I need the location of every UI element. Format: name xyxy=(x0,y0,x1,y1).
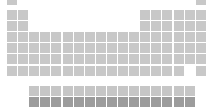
element-cell[interactable] xyxy=(40,32,50,42)
lanthanide-cell[interactable] xyxy=(85,86,95,96)
element-cell[interactable] xyxy=(7,10,17,20)
element-cell[interactable] xyxy=(196,43,206,53)
element-cell[interactable] xyxy=(185,21,195,31)
element-cell[interactable] xyxy=(162,54,172,64)
element-cell[interactable] xyxy=(196,54,206,64)
actinide-cell[interactable] xyxy=(63,97,73,107)
element-cell[interactable] xyxy=(63,32,73,42)
actinide-cell[interactable] xyxy=(151,97,161,107)
element-cell[interactable] xyxy=(29,54,39,64)
element-cell[interactable] xyxy=(51,32,61,42)
element-cell[interactable] xyxy=(162,66,172,76)
element-cell[interactable] xyxy=(29,32,39,42)
element-cell[interactable] xyxy=(74,66,84,76)
lanthanide-cell[interactable] xyxy=(29,86,39,96)
element-cell[interactable] xyxy=(196,0,206,5)
element-cell[interactable] xyxy=(7,43,17,53)
element-cell[interactable] xyxy=(18,54,28,64)
element-cell[interactable] xyxy=(151,10,161,20)
element-cell[interactable] xyxy=(129,54,139,64)
actinide-cell[interactable] xyxy=(129,97,139,107)
element-cell[interactable] xyxy=(63,66,73,76)
element-cell[interactable] xyxy=(140,21,150,31)
element-cell[interactable] xyxy=(174,10,184,20)
element-cell[interactable] xyxy=(51,66,61,76)
element-cell[interactable] xyxy=(151,66,161,76)
element-cell[interactable] xyxy=(96,43,106,53)
actinide-cell[interactable] xyxy=(74,97,84,107)
element-cell[interactable] xyxy=(118,32,128,42)
element-cell[interactable] xyxy=(63,54,73,64)
element-cell[interactable] xyxy=(174,54,184,64)
lanthanide-cell[interactable] xyxy=(151,86,161,96)
actinide-cell[interactable] xyxy=(96,97,106,107)
element-cell[interactable] xyxy=(107,54,117,64)
actinide-cell[interactable] xyxy=(174,97,184,107)
element-cell[interactable] xyxy=(7,54,17,64)
element-cell[interactable] xyxy=(151,54,161,64)
actinide-cell[interactable] xyxy=(118,97,128,107)
element-cell[interactable] xyxy=(96,54,106,64)
element-cell[interactable] xyxy=(196,32,206,42)
element-cell[interactable] xyxy=(162,32,172,42)
element-cell[interactable] xyxy=(129,32,139,42)
lanthanide-cell[interactable] xyxy=(107,86,117,96)
lanthanide-cell[interactable] xyxy=(74,86,84,96)
element-cell[interactable] xyxy=(96,32,106,42)
lanthanide-cell[interactable] xyxy=(63,86,73,96)
element-cell[interactable] xyxy=(7,32,17,42)
element-cell[interactable] xyxy=(18,66,28,76)
element-cell[interactable] xyxy=(162,10,172,20)
lanthanide-cell[interactable] xyxy=(51,86,61,96)
element-cell[interactable] xyxy=(129,43,139,53)
element-cell[interactable] xyxy=(174,21,184,31)
element-cell[interactable] xyxy=(96,66,106,76)
element-cell[interactable] xyxy=(118,54,128,64)
element-cell[interactable] xyxy=(18,43,28,53)
element-cell[interactable] xyxy=(29,66,39,76)
lanthanide-cell[interactable] xyxy=(129,86,139,96)
element-cell[interactable] xyxy=(185,32,195,42)
element-cell[interactable] xyxy=(107,66,117,76)
element-cell[interactable] xyxy=(85,54,95,64)
element-cell[interactable] xyxy=(7,21,17,31)
element-cell[interactable] xyxy=(196,66,206,76)
element-cell[interactable] xyxy=(140,32,150,42)
element-cell[interactable] xyxy=(18,21,28,31)
element-cell[interactable] xyxy=(151,32,161,42)
element-cell[interactable] xyxy=(18,32,28,42)
actinide-cell[interactable] xyxy=(140,97,150,107)
lanthanide-cell[interactable] xyxy=(185,86,195,96)
lanthanide-cell[interactable] xyxy=(162,86,172,96)
actinide-cell[interactable] xyxy=(85,97,95,107)
element-cell[interactable] xyxy=(118,43,128,53)
lanthanide-cell[interactable] xyxy=(96,86,106,96)
element-cell[interactable] xyxy=(140,66,150,76)
element-cell[interactable] xyxy=(174,66,184,76)
element-cell[interactable] xyxy=(107,43,117,53)
element-cell[interactable] xyxy=(151,43,161,53)
element-cell[interactable] xyxy=(162,21,172,31)
element-cell[interactable] xyxy=(40,66,50,76)
actinide-cell[interactable] xyxy=(162,97,172,107)
element-cell[interactable] xyxy=(196,10,206,20)
lanthanide-cell[interactable] xyxy=(140,86,150,96)
lanthanide-cell[interactable] xyxy=(174,86,184,96)
element-cell[interactable] xyxy=(185,54,195,64)
element-cell[interactable] xyxy=(51,43,61,53)
element-cell[interactable] xyxy=(174,43,184,53)
element-cell[interactable] xyxy=(118,66,128,76)
element-cell[interactable] xyxy=(140,54,150,64)
actinide-cell[interactable] xyxy=(40,97,50,107)
element-cell[interactable] xyxy=(51,54,61,64)
element-cell[interactable] xyxy=(151,21,161,31)
element-cell[interactable] xyxy=(85,66,95,76)
element-cell[interactable] xyxy=(63,43,73,53)
actinide-cell[interactable] xyxy=(185,97,195,107)
element-cell[interactable] xyxy=(140,43,150,53)
element-cell[interactable] xyxy=(7,66,17,76)
actinide-cell[interactable] xyxy=(51,97,61,107)
element-cell[interactable] xyxy=(162,43,172,53)
element-cell[interactable] xyxy=(40,54,50,64)
element-cell[interactable] xyxy=(107,32,117,42)
